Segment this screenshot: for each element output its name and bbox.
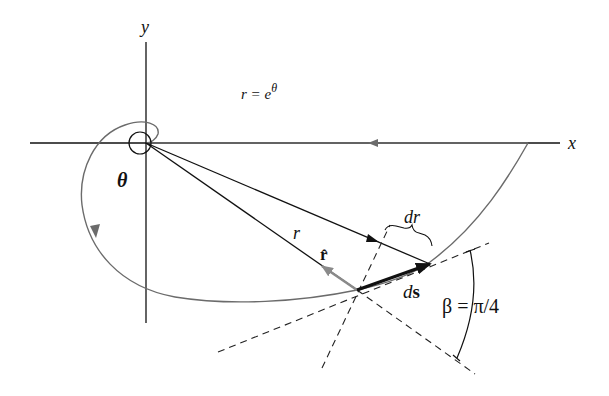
theta-label: θ [117, 170, 127, 190]
y-axis-label: y [141, 18, 149, 36]
equation-lhs: r = e [241, 86, 271, 102]
equation-exponent: θ [271, 81, 277, 95]
spiral-diagram: y x r = eθ θ r dr r̂ ds β = π/4 [0, 0, 609, 396]
ds-label: ds [403, 282, 420, 301]
radius-arrow [366, 234, 379, 242]
diagram-canvas [0, 0, 609, 396]
equation-label: r = eθ [241, 82, 277, 102]
spiral-arrow-top [368, 139, 378, 147]
ds-label-s: s [413, 281, 420, 302]
x-axis-label: x [568, 134, 576, 152]
beta-arc-tick-bottom [453, 355, 460, 361]
r-label: r [293, 224, 300, 242]
dr-brace [385, 225, 432, 246]
r-hat-label: r̂ [320, 246, 328, 263]
ds-label-d: d [403, 281, 413, 302]
r-hat-vector [322, 266, 357, 290]
dr-label: dr [404, 208, 420, 226]
spiral-curve [81, 122, 528, 302]
beta-label: β = π/4 [442, 296, 499, 316]
radius-line-to-P-prime [146, 143, 430, 264]
